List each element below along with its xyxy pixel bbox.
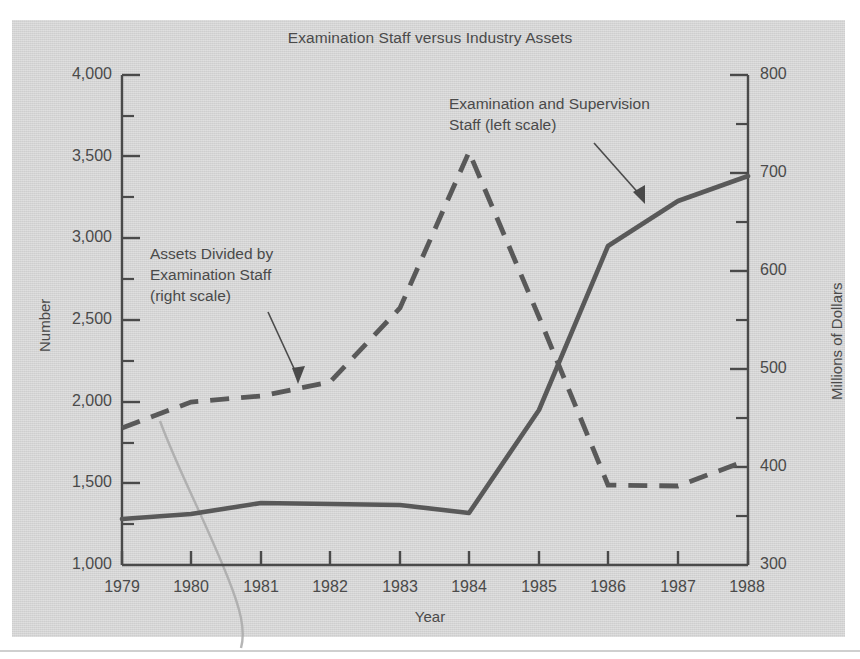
series-assets-per-staff-line [122, 152, 748, 486]
exam-staff-leader-arrow [594, 143, 645, 204]
assets-per-staff-leader-arrow [268, 312, 305, 384]
plot-area [0, 0, 860, 659]
x-axis-ticks [122, 551, 748, 565]
y-right-minor-ticks [736, 124, 748, 516]
y-right-major-ticks [730, 75, 748, 467]
scan-artifact-curve [160, 421, 243, 648]
figure-container: Examination Staff versus Industry Assets… [0, 0, 860, 659]
